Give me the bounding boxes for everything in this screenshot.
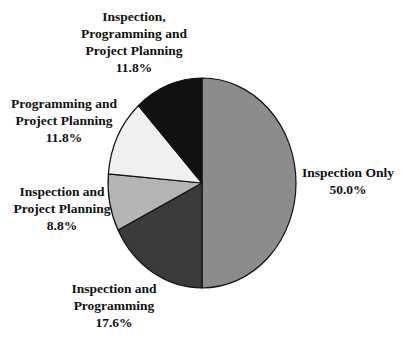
label-inspection-programming: Inspection and Programming 17.6% bbox=[58, 280, 170, 331]
label-programming-planning: Programming and Project Planning 11.8% bbox=[4, 95, 124, 146]
label-all-three: Inspection, Programming and Project Plan… bbox=[64, 8, 204, 76]
label-inspection-planning: Inspection and Project Planning 8.8% bbox=[6, 183, 118, 234]
slice-inspection-only bbox=[202, 78, 296, 288]
label-inspection-only: Inspection Only 50.0% bbox=[296, 164, 400, 198]
